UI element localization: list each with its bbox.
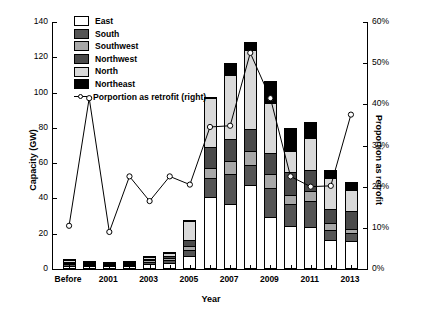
bar-segment-east [325, 241, 336, 268]
x-axis-tick-label: 2011 [300, 274, 318, 284]
y-axis-right-tick-label: 20% [372, 182, 389, 191]
y-axis-left-tick [53, 198, 57, 199]
stacked-bar[interactable] [244, 42, 257, 269]
legend-item-northeast: Northeast [74, 78, 206, 91]
bar-segment-east [265, 218, 276, 268]
legend-swatch-east [74, 16, 89, 26]
y-axis-left-title: Capacity (GW) [28, 129, 38, 191]
bar-segment-north [205, 99, 216, 148]
stacked-bar[interactable] [304, 122, 317, 269]
bar-segment-northeast [245, 43, 256, 51]
chart-figure: Capacity (GW) Proportion as retrofit Yea… [0, 0, 422, 319]
legend-label-southwest: Southwest [95, 42, 138, 51]
legend-swatch-northeast [74, 79, 89, 89]
stacked-bar[interactable] [264, 81, 277, 269]
bar-segment-southwest [305, 192, 316, 202]
bar-segment-northwest [245, 130, 256, 153]
stacked-bar[interactable] [204, 97, 217, 269]
stacked-bar[interactable] [324, 170, 337, 269]
bar-segment-north [346, 191, 357, 211]
bar-segment-south [265, 189, 276, 218]
x-axis-tick [331, 265, 332, 269]
y-axis-left-tick-label: 120 [34, 52, 48, 61]
bar-segment-southwest [225, 162, 236, 175]
y-axis-left-tick [53, 93, 57, 94]
bar-segment-south [285, 205, 296, 227]
legend-swatch-northwest [74, 54, 89, 64]
bar-segment-northeast [346, 183, 357, 191]
stacked-bar[interactable] [224, 63, 237, 269]
y-axis-right-tick [363, 104, 367, 105]
legend-label-north: North [95, 67, 118, 76]
y-axis-right-tick-label: 50% [372, 58, 389, 67]
x-axis-tick [250, 265, 251, 269]
y-axis-left-tick-label: 80 [39, 123, 48, 132]
y-axis-left-tick [53, 128, 57, 129]
x-axis-tick-label: 2005 [179, 274, 198, 284]
bar-segment-south [346, 234, 357, 243]
y-axis-left-tick [53, 269, 57, 270]
bar-segment-southwest [285, 196, 296, 206]
bar-segment-north [184, 222, 195, 241]
legend-swatch-south [74, 29, 89, 39]
legend-swatch-north [74, 67, 89, 77]
y-axis-left-tick [53, 163, 57, 164]
legend-label-south: South [95, 30, 119, 39]
y-axis-right-tick [363, 269, 367, 270]
bar-segment-north [285, 152, 296, 173]
x-axis-tick-label: Before [55, 274, 82, 284]
x-axis-tick-label: 2003 [139, 274, 158, 284]
stacked-bar[interactable] [284, 128, 297, 269]
y-axis-right-tick-label: 10% [372, 223, 389, 232]
bar-segment-northeast [325, 171, 336, 179]
y-axis-left-tick-label: 20 [39, 229, 48, 238]
y-axis-left-tick-label: 0 [43, 264, 48, 273]
x-axis-tick-label: 2001 [99, 274, 118, 284]
y-axis-right-tick [363, 146, 367, 147]
y-axis-left-tick-label: 140 [34, 17, 48, 26]
bar-segment-south [325, 231, 336, 241]
bar-segment-northwest [205, 148, 216, 169]
x-axis-tick [129, 265, 130, 269]
legend-label-northeast: Northeast [95, 80, 135, 89]
x-axis-tick-label: 2013 [340, 274, 359, 284]
y-axis-right-tick-label: 60% [372, 17, 389, 26]
legend-item-retrofit-line: Porportion as retrofit (right) [74, 91, 206, 104]
legend-item-north: North [74, 65, 206, 78]
y-axis-right-tick-label: 30% [372, 141, 389, 150]
bar-segment-southwest [245, 152, 256, 165]
x-axis-tick [190, 265, 191, 269]
bar-segment-northwest [265, 154, 276, 175]
bar-slot [341, 22, 361, 269]
bar-segment-northwest [325, 210, 336, 224]
x-axis-tick [230, 265, 231, 269]
bar-segment-south [305, 202, 316, 228]
stacked-bar[interactable] [183, 220, 196, 269]
bar-segment-northwest [225, 140, 236, 162]
x-axis-tick-label: 2009 [260, 274, 279, 284]
bar-segment-south [245, 166, 256, 186]
bar-segment-southwest [205, 169, 216, 179]
bar-slot [301, 22, 321, 269]
y-axis-right-tick [363, 228, 367, 229]
x-axis-title: Year [0, 294, 422, 304]
bar-segment-east [285, 227, 296, 268]
stacked-bar[interactable] [345, 182, 358, 269]
legend-item-southwest: Southwest [74, 40, 206, 53]
bar-segment-east [305, 228, 316, 268]
bar-segment-northeast [225, 64, 236, 75]
y-axis-left-tick [53, 57, 57, 58]
legend-item-east: East [74, 15, 206, 28]
y-axis-right-tick [363, 63, 367, 64]
bar-segment-southwest [325, 224, 336, 231]
x-axis-tick [210, 265, 211, 269]
bar-slot [220, 22, 240, 269]
x-axis-tick [270, 265, 271, 269]
bar-segment-north [225, 76, 236, 140]
y-axis-right-tick [363, 187, 367, 188]
x-axis-tick-label: 2007 [220, 274, 239, 284]
x-axis-tick [170, 265, 171, 269]
bar-slot [240, 22, 260, 269]
x-axis-tick [311, 265, 312, 269]
bar-segment-south [205, 179, 216, 198]
